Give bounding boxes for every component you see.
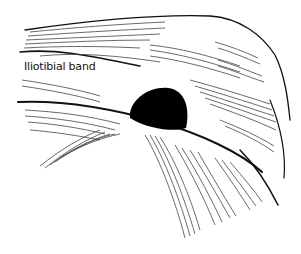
iliotibial-band-label: Iliotibial band	[22, 60, 97, 74]
lower-muscle-hatching	[22, 80, 120, 168]
thigh-muscle-hatching	[145, 135, 262, 238]
anatomy-illustration: Iliotibial band	[0, 0, 301, 254]
tendon-opening-shape	[130, 88, 188, 130]
muscle-drawing	[0, 0, 301, 254]
